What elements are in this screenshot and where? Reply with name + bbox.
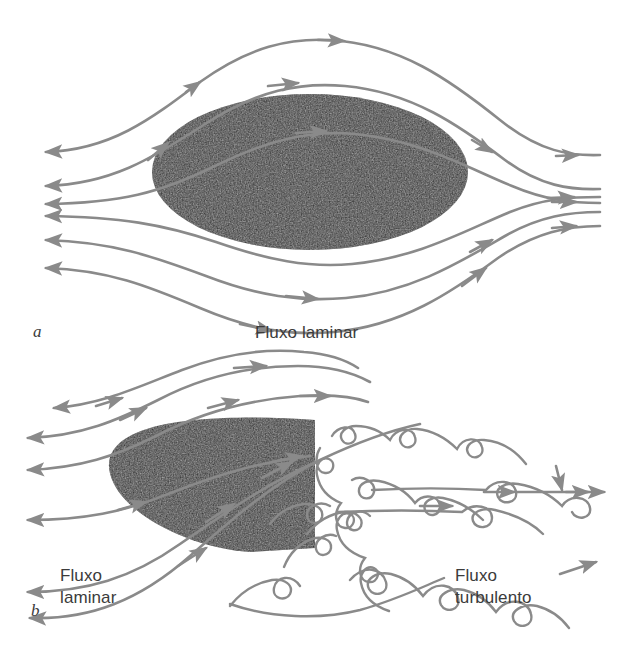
wake-arrow-lower xyxy=(560,562,596,574)
body-blunt xyxy=(109,418,315,552)
arrow-a1-mid xyxy=(186,82,200,92)
arrow-a4-mid xyxy=(548,197,574,198)
arrow-a1-top xyxy=(318,40,344,41)
wake-arrowheads xyxy=(420,466,604,574)
arrow-b5-mid xyxy=(120,408,146,420)
caption-fluxo-laminar-a: Fluxo laminar xyxy=(255,322,358,344)
arrow-b1-low xyxy=(178,548,206,566)
arrow-a6-out xyxy=(462,268,486,286)
wake-line-3 xyxy=(352,478,483,520)
wake-arrow-top-down xyxy=(556,466,562,490)
wake-jet-upper xyxy=(372,482,590,518)
figure-root: a Fluxo laminar b Fluxo laminar Fluxo tu… xyxy=(0,0,642,655)
wake-scallop-lower xyxy=(230,578,300,606)
panel-letter-a: a xyxy=(33,322,42,342)
panel-letter-b: b xyxy=(31,601,40,621)
arrow-a1-out xyxy=(556,155,578,156)
panel-a xyxy=(46,40,600,333)
wake-jet-mid xyxy=(338,506,543,534)
caption-fluxo-turbulento: Fluxo turbulento xyxy=(455,565,532,609)
arrow-a2-top xyxy=(268,83,298,86)
wake-line-1 xyxy=(332,426,526,464)
caption-fluxo-laminar-b: Fluxo laminar xyxy=(60,565,116,609)
